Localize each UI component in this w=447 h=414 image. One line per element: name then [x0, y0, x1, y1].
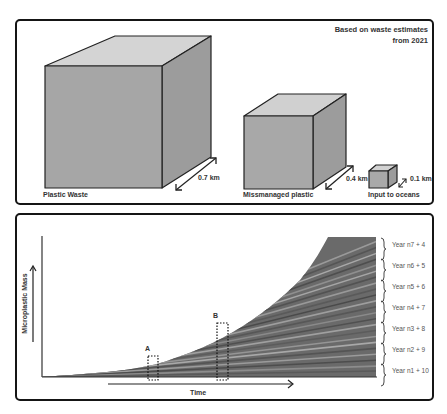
year-label: Year n2 + 9 — [392, 346, 425, 353]
x-axis-label: Time — [190, 389, 206, 396]
year-label: Year n1 + 10 — [392, 367, 429, 374]
marker-b-label: B — [213, 312, 218, 319]
year-label: Year n6 + 5 — [392, 262, 425, 269]
stacked-mass-area — [42, 230, 382, 380]
year-label: Year n4 + 7 — [392, 304, 425, 311]
microplastic-chart — [0, 0, 447, 414]
time-arrow-icon — [108, 380, 293, 388]
marker-a-label: A — [145, 345, 150, 352]
y-axis-label: Microplastic Mass — [21, 273, 28, 333]
year-label: Year n3 + 8 — [392, 325, 425, 332]
year-label: Year n5 + 6 — [392, 283, 425, 290]
y-arrow-icon — [30, 266, 36, 342]
year-braces — [381, 238, 386, 386]
year-label: Year n7 + 4 — [392, 241, 425, 248]
